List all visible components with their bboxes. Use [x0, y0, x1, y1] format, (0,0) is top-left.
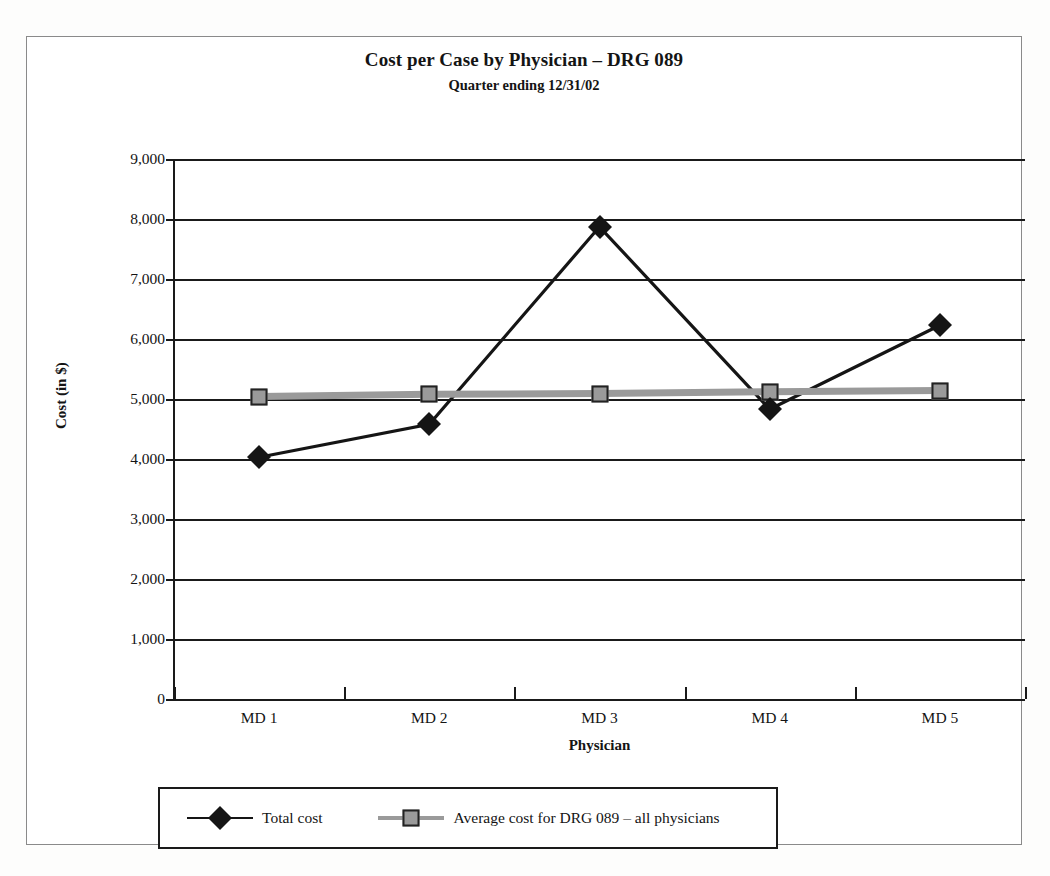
chart-legend: Total cost Average cost for DRG 089 – al…: [158, 787, 778, 849]
x-axis-tick: [855, 687, 857, 699]
chart-page: Cost per Case by Physician – DRG 089 Qua…: [0, 0, 1050, 876]
x-axis-tick-label: MD 4: [685, 709, 855, 735]
x-axis-tick: [685, 687, 687, 699]
x-axis-tick: [1025, 687, 1027, 699]
chart-subtitle: Quarter ending 12/31/02: [27, 77, 1021, 94]
y-axis-tick-labels: 01,0002,0003,0004,0005,0006,0007,0008,00…: [89, 159, 165, 699]
y-axis-tick-label: 2,000: [130, 570, 165, 588]
x-axis-tick: [174, 687, 176, 699]
y-axis-tick: [166, 459, 174, 461]
legend-label-total-cost: Total cost: [262, 809, 322, 827]
x-axis-tick-label: MD 3: [514, 709, 684, 735]
x-axis-tick-label: MD 2: [344, 709, 514, 735]
x-axis-tick-label: MD 5: [855, 709, 1025, 735]
plot-area: [174, 159, 1025, 699]
figure-frame: Cost per Case by Physician – DRG 089 Qua…: [26, 36, 1022, 845]
legend-entry-total-cost: Total cost: [187, 809, 322, 827]
y-axis-tick: [166, 519, 174, 521]
x-axis-tick-label: MD 1: [174, 709, 344, 735]
y-axis-tick-label: 4,000: [130, 450, 165, 468]
y-axis-tick-label: 7,000: [130, 270, 165, 288]
data-point-marker-square: [251, 388, 268, 405]
x-axis-tick: [344, 687, 346, 699]
y-axis-tick: [166, 279, 174, 281]
y-axis-tick-label: 1,000: [130, 630, 165, 648]
y-axis-tick: [166, 579, 174, 581]
y-axis-tick: [166, 699, 174, 701]
legend-entry-average-cost: Average cost for DRG 089 – all physician…: [378, 809, 719, 827]
y-axis-tick-label: 0: [157, 690, 165, 708]
series-line: [259, 227, 940, 457]
y-axis-tick-label: 5,000: [130, 390, 165, 408]
data-point-marker-square: [591, 385, 608, 402]
y-axis-title: Cost (in $): [53, 362, 70, 429]
data-point-marker-square: [421, 386, 438, 403]
y-axis-tick: [166, 159, 174, 161]
legend-key-diamond-icon: [187, 809, 253, 827]
y-axis-tick: [166, 219, 174, 221]
y-axis-tick: [166, 339, 174, 341]
legend-key-square-icon: [378, 809, 444, 827]
series-lines: [174, 159, 1025, 699]
page-title: Cost per Case by Physician – DRG 089: [27, 49, 1021, 71]
x-axis-tick-labels: MD 1MD 2MD 3MD 4MD 5: [174, 709, 1025, 735]
x-axis-tick: [514, 687, 516, 699]
x-axis-title: Physician: [174, 737, 1025, 754]
legend-label-average-cost: Average cost for DRG 089 – all physician…: [453, 809, 719, 827]
y-axis-tick: [166, 639, 174, 641]
y-axis-tick-label: 3,000: [130, 510, 165, 528]
y-axis-tick-label: 6,000: [130, 330, 165, 348]
y-axis-tick: [166, 399, 174, 401]
y-axis-tick-label: 9,000: [130, 150, 165, 168]
y-axis-tick-label: 8,000: [130, 210, 165, 228]
data-point-marker-square: [931, 382, 948, 399]
